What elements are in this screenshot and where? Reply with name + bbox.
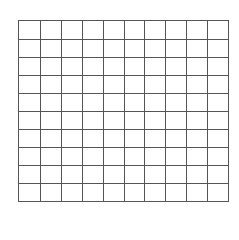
grid-horizontal-line [19, 111, 228, 112]
grid-horizontal-line [19, 129, 228, 130]
grid-horizontal-line [19, 147, 228, 148]
grid-horizontal-line [19, 93, 228, 94]
grid-horizontal-line [19, 75, 228, 76]
grid-horizontal-line [19, 39, 228, 40]
square-grid [18, 20, 229, 202]
grid-horizontal-line [19, 165, 228, 166]
grid-horizontal-line [19, 57, 228, 58]
grid-horizontal-line [19, 183, 228, 184]
